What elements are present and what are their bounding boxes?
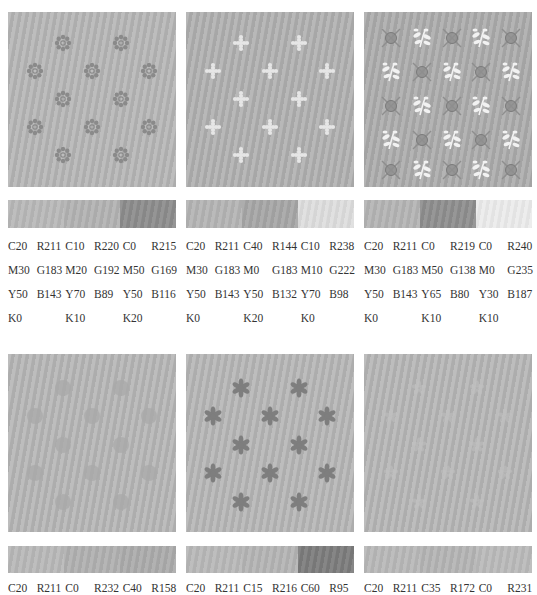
color-chip-2 [242,546,298,573]
flower-icon [381,463,401,487]
color-green-value: G183 [215,264,244,277]
cross-flower-icon [231,89,251,113]
color-chip-2 [242,200,298,228]
color-magenta-value: M50 [123,264,152,277]
empty-cell [94,312,123,325]
color-chip-2 [64,546,120,573]
color-magenta-value: M0 [479,264,508,277]
color-green-value: G222 [329,264,358,277]
color-red-value: R216 [272,582,301,595]
star-flower-icon [260,463,280,487]
cross-flower-icon [317,61,337,85]
color-yellow-value: Y70 [301,288,330,301]
color-black-value: K0 [8,312,37,325]
color-magenta-value: M20 [65,264,94,277]
leaf-sprig-icon [500,129,522,155]
star-flower-icon [317,463,337,487]
color-blue-value: B187 [507,288,536,301]
crossed-circle-icon [411,61,433,87]
color-chip-3 [476,200,532,228]
empty-cell [450,312,479,325]
color-red-value: R211 [37,582,66,595]
color-bar [186,200,354,228]
color-bar [8,200,176,228]
color-red-value: R158 [151,582,180,595]
empty-cell [215,312,244,325]
color-bar [8,546,176,573]
color-red-value: R231 [507,582,536,595]
color-chip-3 [298,200,354,228]
crossed-circle-icon [500,95,522,121]
rosette-icon [111,89,131,113]
color-cyan-value: C0 [123,240,152,253]
color-chip-3 [476,546,532,573]
color-black-value: K0 [364,312,393,325]
empty-cell [272,312,301,325]
color-blue-value: B116 [151,288,180,301]
rosette-icon [53,492,73,516]
leaf-sprig-icon [411,95,433,121]
rosette-icon [139,406,159,430]
color-cyan-value: C20 [8,582,37,595]
color-cyan-value: C20 [364,240,393,253]
rosette-icon [25,61,45,85]
star-flower-icon [231,435,251,459]
color-black-value: K10 [479,312,508,325]
color-green-value: G183 [272,264,301,277]
crossed-circle-icon [380,95,402,121]
flower-icon [467,492,487,516]
crossed-circle-icon [500,27,522,53]
flower-icon [438,406,458,430]
color-yellow-value: Y30 [479,288,508,301]
cross-flower-icon [231,33,251,57]
color-codes: C20R211C10R220C0R215M30G183M20G192M50G16… [8,240,180,325]
color-chip-1 [186,546,242,573]
color-chip-1 [8,200,64,228]
color-yellow-value: Y50 [243,288,272,301]
color-cyan-value: C35 [421,582,450,595]
color-codes: C20R211C15R216C60R95 [186,582,358,595]
rosette-icon [82,463,102,487]
crossed-circle-icon [441,95,463,121]
pattern-swatch [186,354,354,532]
cross-flower-icon [203,61,223,85]
color-magenta-value: M30 [8,264,37,277]
rosette-icon [25,117,45,141]
color-magenta-value: M30 [186,264,215,277]
color-blue-value: B143 [37,288,66,301]
color-chip-2 [420,200,476,228]
star-flower-icon [260,406,280,430]
rosette-icon [139,117,159,141]
leaf-sprig-icon [380,61,402,87]
color-red-value: R211 [393,240,422,253]
color-cyan-value: C40 [123,582,152,595]
leaf-sprig-icon [500,61,522,87]
empty-cell [393,312,422,325]
cross-flower-icon [289,89,309,113]
flower-icon [409,435,429,459]
color-blue-value: B143 [393,288,422,301]
color-black-value: K10 [421,312,450,325]
color-chip-3 [120,546,176,573]
cross-flower-icon [289,33,309,57]
cross-flower-icon [317,117,337,141]
color-red-value: R211 [215,582,244,595]
crossed-circle-icon [470,61,492,87]
color-chip-2 [420,546,476,573]
star-flower-icon [231,378,251,402]
color-cyan-value: C0 [421,240,450,253]
color-chip-3 [298,546,354,573]
star-flower-icon [289,492,309,516]
rosette-icon [111,435,131,459]
cross-flower-icon [231,145,251,169]
cross-flower-icon [289,145,309,169]
color-blue-value: B132 [272,288,301,301]
color-cyan-value: C10 [301,240,330,253]
color-yellow-value: Y65 [421,288,450,301]
empty-cell [329,312,358,325]
color-codes: C20R211C0R232C40R158 [8,582,180,595]
star-flower-icon [317,406,337,430]
color-cyan-value: C40 [243,240,272,253]
rosette-icon [111,378,131,402]
color-cyan-value: C20 [186,582,215,595]
